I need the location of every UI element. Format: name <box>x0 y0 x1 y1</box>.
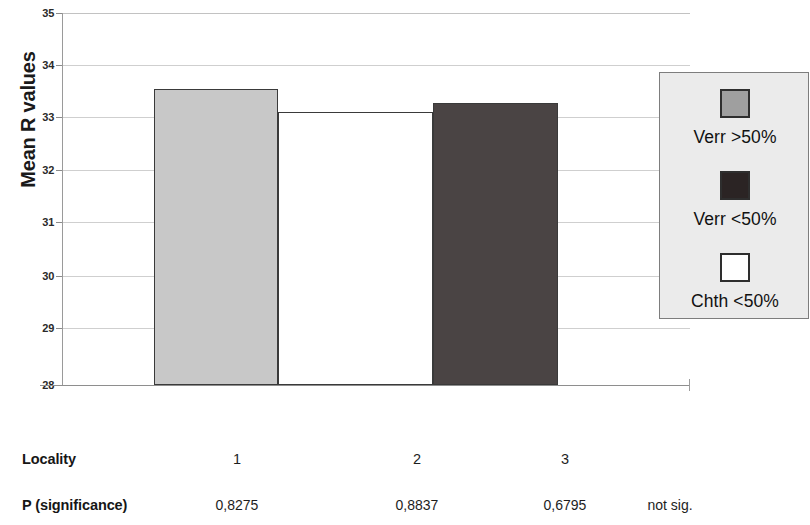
bar-locality-2 <box>278 112 433 385</box>
bar-chart-plot-area: Mean R values 35 34 33 32 31 30 29 28 <box>0 0 810 425</box>
bar-locality-1 <box>154 89 278 385</box>
figure: Mean R values 35 34 33 32 31 30 29 28 <box>0 0 810 525</box>
legend-swatch-verr-below-50 <box>720 171 750 200</box>
legend-label-chth-below-50: Chth <50% <box>660 291 810 312</box>
gridline-35 <box>62 13 690 14</box>
legend-swatch-verr-above-50 <box>720 89 750 118</box>
legend-label-verr-below-50: Verr <50% <box>660 209 810 230</box>
chart-legend: Verr >50% Verr <50% Chth <50% <box>659 72 809 319</box>
legend-label-verr-above-50: Verr >50% <box>660 127 810 148</box>
y-tick-label-32: 32 <box>24 164 54 176</box>
table-cell-locality-3: 3 <box>561 451 569 467</box>
y-tick-label-30: 30 <box>24 270 54 282</box>
legend-entry-verr-above-50: Verr >50% <box>660 89 810 148</box>
legend-entry-verr-below-50: Verr <50% <box>660 171 810 230</box>
y-axis-line <box>62 13 63 385</box>
table-cell-p-value-3: 0,6795 <box>544 497 587 513</box>
table-row-header-locality: Locality <box>22 451 76 467</box>
table-cell-locality-1: 1 <box>233 451 241 467</box>
table-cell-significance-note: not sig. <box>647 497 692 513</box>
bar-locality-3 <box>433 103 558 385</box>
table-cell-p-value-2: 0,8837 <box>396 497 439 513</box>
table-row-header-p-significance: P (significance) <box>22 497 127 513</box>
x-axis-baseline <box>40 385 690 386</box>
y-tick-label-33: 33 <box>24 111 54 123</box>
baseline-end-tick <box>689 379 690 391</box>
legend-swatch-chth-below-50 <box>720 253 750 282</box>
y-tick-label-29: 29 <box>24 322 54 334</box>
y-tick-label-31: 31 <box>24 216 54 228</box>
y-tick-label-35: 35 <box>24 7 54 19</box>
table-cell-p-value-1: 0,8275 <box>216 497 259 513</box>
legend-entry-chth-below-50: Chth <50% <box>660 253 810 312</box>
table-cell-locality-2: 2 <box>413 451 421 467</box>
y-tick-label-34: 34 <box>24 59 54 71</box>
statistics-table: Locality 1 2 3 P (significance) 0,8275 0… <box>0 425 810 525</box>
gridline-34 <box>62 65 690 66</box>
